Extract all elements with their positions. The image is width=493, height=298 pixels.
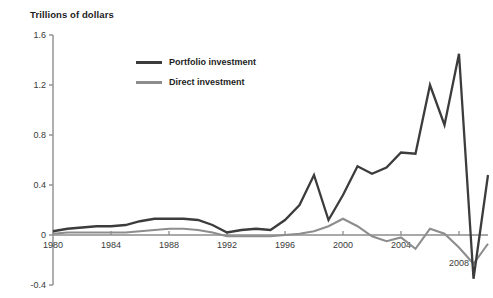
x-axis-tick-label: 1980 (43, 240, 63, 250)
x-axis-tick-label: 2008 (449, 258, 469, 268)
x-axis-tick-label: 1992 (217, 240, 237, 250)
x-axis-tick-label: 2000 (333, 240, 353, 250)
x-axis-tick-label: 1988 (159, 240, 179, 250)
y-axis: 1.61.20.80.40-0.4 (30, 30, 53, 290)
y-axis-tick-label: 0.8 (33, 130, 46, 140)
y-axis-tick-label: 0.4 (33, 180, 46, 190)
y-axis-tick-label: 1.6 (33, 30, 46, 40)
y-axis-tick-label: 0 (41, 230, 46, 240)
chart-figure: Trillions of dollars Portfolio investmen… (0, 0, 493, 298)
chart-plot-area: 1.61.20.80.40-0.4 1980198419881992199620… (0, 0, 493, 298)
x-axis-tick-label: 1996 (275, 240, 295, 250)
x-axis-tick-label: 2004 (391, 240, 411, 250)
y-axis-tick-label: -0.4 (30, 280, 46, 290)
y-axis-tick-label: 1.2 (33, 80, 46, 90)
x-axis-tick-label: 1984 (101, 240, 121, 250)
